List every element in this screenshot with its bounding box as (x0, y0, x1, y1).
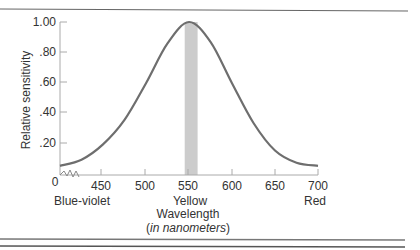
y-ticks (60, 22, 67, 143)
yellow-highlight-band (185, 22, 198, 175)
x-tick-label: 550 (178, 179, 198, 193)
x-axis-title: Wavelength (157, 207, 220, 221)
x-tick-label: 600 (222, 179, 242, 193)
bottom-rule-1 (0, 239, 405, 240)
y-tick-label: 1.00 (33, 15, 57, 29)
x-axis-subtitle: (in nanometers) (146, 221, 230, 235)
x-tick-label: 700 (308, 179, 328, 193)
x-tick-label: 650 (265, 179, 285, 193)
y-tick-label: .40 (39, 105, 56, 119)
top-rule (0, 9, 408, 11)
x-origin-label: 0 (52, 175, 59, 189)
axis-break-icon (60, 170, 79, 177)
bottom-rule-2 (0, 246, 405, 247)
color-label-yellow: Yellow (173, 194, 208, 208)
y-tick-label: .60 (39, 75, 56, 89)
y-tick-label: .20 (39, 136, 56, 150)
y-tick-label: .80 (39, 45, 56, 59)
x-ticks (101, 169, 318, 175)
color-label-red: Red (304, 194, 326, 208)
x-tick-label: 500 (135, 179, 155, 193)
color-label-blue-violet: Blue-violet (54, 194, 111, 208)
y-axis-title: Relative sensitivity (19, 51, 33, 150)
sensitivity-chart: 1.00 .80 .60 .40 .20 Relative sensitivit… (0, 0, 420, 250)
x-tick-label: 450 (91, 179, 111, 193)
